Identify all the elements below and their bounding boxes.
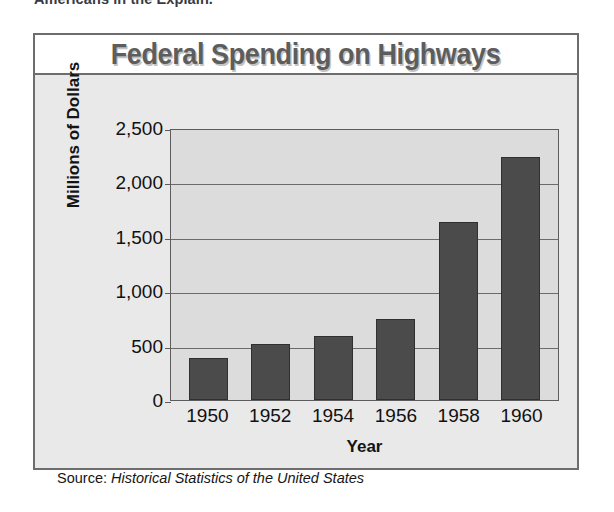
clipped-worksheet-text: Americans in the Explain. (34, 0, 434, 7)
bar (501, 157, 540, 400)
bar (314, 336, 353, 400)
y-tick-label: 0 (152, 390, 163, 412)
x-axis-title: Year (170, 437, 559, 457)
y-tick-label: 500 (131, 336, 163, 358)
plot-area (170, 129, 559, 401)
x-tick-label: 1956 (364, 405, 427, 427)
chart-body: Millions of Dollars 05001,0001,5002,0002… (35, 75, 577, 468)
chart-title-band: Federal Spending on Highways (35, 35, 577, 75)
bar-slot (240, 130, 303, 400)
bar-slot (427, 130, 490, 400)
y-tick-label: 2,000 (115, 172, 163, 194)
source-value: Historical Statistics of the United Stat… (107, 470, 364, 486)
x-axis-tick-labels: 195019521954195619581960 (170, 405, 559, 427)
bar (251, 344, 290, 400)
source-label: Source: (57, 470, 107, 486)
bar-slot (490, 130, 553, 400)
y-tickmark (165, 402, 171, 403)
bar (189, 358, 228, 400)
bar-slot (177, 130, 240, 400)
bar-series (171, 130, 558, 400)
y-axis-tick-labels: 05001,0001,5002,0002,500 (79, 129, 163, 401)
x-tick-label: 1958 (427, 405, 490, 427)
y-tick-label: 2,500 (115, 118, 163, 140)
bar (376, 319, 415, 400)
x-tick-label: 1950 (176, 405, 239, 427)
source-line: Source:Historical Statistics of the Unit… (57, 470, 364, 486)
y-tick-label: 1,000 (115, 281, 163, 303)
bar-slot (302, 130, 365, 400)
chart-figure: Federal Spending on Highways Millions of… (33, 33, 579, 470)
x-tick-label: 1954 (302, 405, 365, 427)
x-tick-label: 1952 (239, 405, 302, 427)
chart-title: Federal Spending on Highways (111, 38, 501, 71)
y-tick-label: 1,500 (115, 227, 163, 249)
x-tick-label: 1960 (490, 405, 553, 427)
bar (439, 222, 478, 400)
bar-slot (365, 130, 428, 400)
